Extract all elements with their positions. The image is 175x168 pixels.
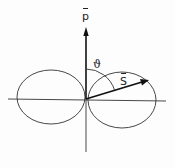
s-vector-shaft: [86, 82, 142, 99]
left-lobe: [17, 70, 85, 124]
angle-arc: [86, 69, 115, 90]
dipole-diagram: p ϑ S: [0, 0, 175, 168]
s-vector-arrowhead: [140, 79, 149, 86]
p-vector-label: p: [82, 11, 89, 22]
diagram-canvas: [0, 0, 175, 168]
p-vector-arrowhead: [83, 27, 88, 36]
angle-label: ϑ: [93, 59, 101, 70]
s-vector-label: S: [120, 76, 127, 87]
